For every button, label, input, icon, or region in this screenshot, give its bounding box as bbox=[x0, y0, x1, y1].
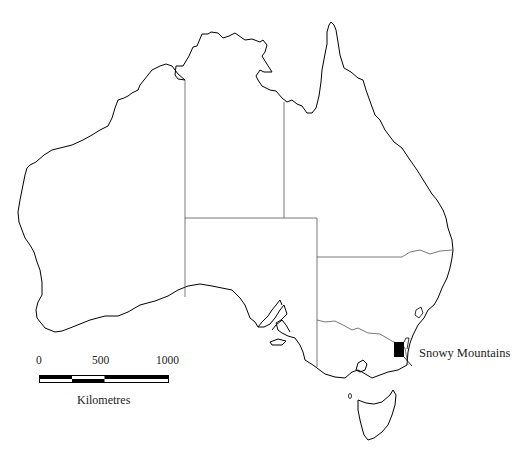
scale-tick-0: 0 bbox=[36, 354, 42, 366]
scale-tick-1000: 1000 bbox=[156, 354, 179, 366]
lake-shape bbox=[415, 307, 423, 318]
mainland-coastline bbox=[18, 22, 453, 378]
qld-nsw-border bbox=[317, 250, 452, 257]
snowy-mountains-marker bbox=[394, 342, 404, 357]
australia-map bbox=[0, 0, 528, 453]
state-borders bbox=[185, 80, 452, 367]
kangaroo-island bbox=[270, 339, 286, 345]
scale-unit-label: Kilometres bbox=[77, 393, 130, 408]
snowy-lake-outline bbox=[404, 338, 409, 349]
tasmania-coastline bbox=[358, 390, 396, 440]
yorke-peninsula-coast bbox=[272, 320, 290, 332]
scale-tick-500: 500 bbox=[92, 354, 109, 366]
king-island bbox=[349, 394, 352, 399]
snowy-mountains-label: Snowy Mountains bbox=[419, 346, 510, 361]
scale-bar-graphic bbox=[40, 376, 169, 383]
